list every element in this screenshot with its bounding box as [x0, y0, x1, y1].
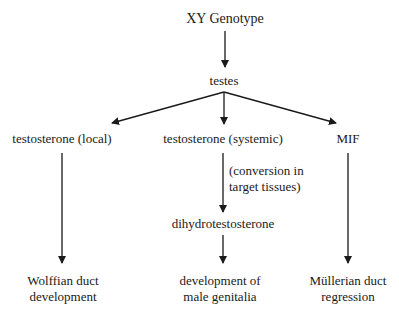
node-genitalia-2: male genitalia: [183, 289, 256, 305]
node-mullerian-2: regression: [321, 289, 374, 305]
sex-differentiation-diagram: XY Genotype testes testosterone (local) …: [0, 0, 399, 316]
node-testes: testes: [210, 73, 239, 89]
node-genotype: XY Genotype: [186, 11, 264, 27]
edge-label-conversion-1: (conversion in: [229, 163, 304, 179]
node-wolffian-2: development: [29, 289, 96, 305]
arrow-testes-local: [112, 92, 224, 123]
arrows-layer: [0, 0, 399, 316]
node-testosterone-local: testosterone (local): [12, 131, 111, 147]
node-genitalia-1: development of: [179, 273, 260, 289]
arrow-testes-mif: [224, 92, 336, 123]
edge-label-conversion-2: target tissues): [229, 179, 301, 195]
node-testosterone-systemic: testosterone (systemic): [163, 131, 283, 147]
node-mif: MIF: [336, 131, 359, 147]
node-wolffian-1: Wolffian duct: [27, 273, 98, 289]
node-mullerian-1: Müllerian duct: [310, 273, 387, 289]
node-dht: dihydrotestosterone: [172, 216, 275, 232]
